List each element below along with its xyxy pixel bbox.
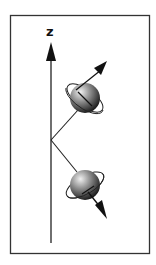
z-axis: z: [46, 24, 56, 243]
spin-up-arrow-icon: [94, 61, 107, 75]
sphere-icon: [70, 83, 100, 113]
lower-particle: [62, 167, 107, 219]
spin-diagram: z: [0, 0, 156, 265]
upper-particle: [63, 61, 108, 117]
diagram-frame: [11, 16, 150, 254]
z-axis-label: z: [46, 24, 54, 39]
z-axis-arrowhead-icon: [46, 42, 56, 61]
connecting-lines: [51, 110, 78, 172]
